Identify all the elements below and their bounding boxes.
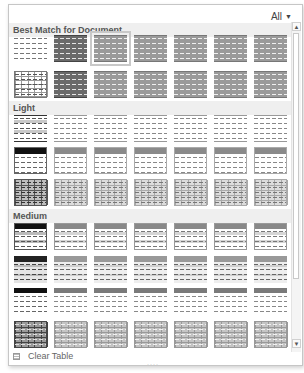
table-style-medium-r6-c2[interactable] bbox=[94, 256, 127, 283]
table-style-light-r2-c3[interactable] bbox=[134, 115, 167, 142]
table-style-best-match-r1-c0[interactable] bbox=[14, 71, 47, 98]
table-style-light-r4-c1[interactable] bbox=[54, 179, 87, 206]
table-style-light-r4-c3[interactable] bbox=[134, 179, 167, 206]
table-style-medium-r5-c0[interactable] bbox=[14, 223, 47, 250]
table-style-light-r3-c1[interactable] bbox=[54, 147, 87, 174]
table-style-light-r2-c2[interactable] bbox=[94, 115, 127, 142]
table-style-medium-r6-c3[interactable] bbox=[134, 256, 167, 283]
table-style-light-r2-c6[interactable] bbox=[254, 115, 287, 142]
scrollbar-thumb[interactable] bbox=[293, 33, 299, 279]
table-style-best-match-r0-c5[interactable] bbox=[214, 35, 247, 62]
table-style-best-match-r1-c3[interactable] bbox=[134, 71, 167, 98]
table-style-medium-r8-c4[interactable] bbox=[174, 321, 207, 348]
table-style-medium-r5-c3[interactable] bbox=[134, 223, 167, 250]
table-style-best-match-r0-c3[interactable] bbox=[134, 35, 167, 62]
table-style-best-match-r1-c4[interactable] bbox=[174, 71, 207, 98]
table-style-light-r3-c6[interactable] bbox=[254, 147, 287, 174]
table-style-medium-r8-c3[interactable] bbox=[134, 321, 167, 348]
clear-table-button[interactable]: Clear Table bbox=[13, 351, 73, 361]
table-style-medium-r7-c2[interactable] bbox=[94, 288, 127, 315]
vertical-scrollbar[interactable]: ▲ ▼ bbox=[291, 22, 301, 352]
table-style-medium-r8-c1[interactable] bbox=[54, 321, 87, 348]
style-gallery: Best Match for DocumentLightMedium bbox=[9, 22, 293, 352]
table-style-medium-r6-c0[interactable] bbox=[14, 256, 47, 283]
section-header-medium: Medium bbox=[9, 209, 293, 223]
table-style-best-match-r1-c2[interactable] bbox=[94, 71, 127, 98]
table-style-best-match-r0-c6[interactable] bbox=[254, 35, 287, 62]
filter-label: All bbox=[271, 11, 282, 22]
table-style-light-r2-c1[interactable] bbox=[54, 115, 87, 142]
table-style-medium-r7-c6[interactable] bbox=[254, 288, 287, 315]
table-style-best-match-r1-c1[interactable] bbox=[54, 71, 87, 98]
table-style-medium-r6-c1[interactable] bbox=[54, 256, 87, 283]
table-style-medium-r8-c6[interactable] bbox=[254, 321, 287, 348]
resize-grip[interactable]: ···· bbox=[147, 361, 159, 367]
table-style-medium-r7-c1[interactable] bbox=[54, 288, 87, 315]
table-style-medium-r6-c4[interactable] bbox=[174, 256, 207, 283]
table-style-best-match-r1-c6[interactable] bbox=[254, 71, 287, 98]
table-style-medium-r7-c0[interactable] bbox=[14, 288, 47, 315]
table-style-light-r2-c0[interactable] bbox=[14, 115, 47, 142]
scroll-down-icon[interactable]: ▼ bbox=[292, 339, 301, 348]
table-style-best-match-r1-c5[interactable] bbox=[214, 71, 247, 98]
table-style-light-r4-c6[interactable] bbox=[254, 179, 287, 206]
table-style-medium-r6-c6[interactable] bbox=[254, 256, 287, 283]
table-style-medium-r7-c3[interactable] bbox=[134, 288, 167, 315]
eraser-table-icon bbox=[13, 353, 20, 360]
filter-dropdown[interactable]: All ▼ bbox=[271, 11, 292, 22]
table-style-medium-r6-c5[interactable] bbox=[214, 256, 247, 283]
table-style-light-r3-c5[interactable] bbox=[214, 147, 247, 174]
scroll-up-icon[interactable]: ▲ bbox=[292, 22, 301, 31]
table-style-best-match-r0-c1[interactable] bbox=[54, 35, 87, 62]
table-style-light-r2-c5[interactable] bbox=[214, 115, 247, 142]
table-style-medium-r5-c6[interactable] bbox=[254, 223, 287, 250]
table-style-light-r4-c5[interactable] bbox=[214, 179, 247, 206]
table-style-light-r2-c4[interactable] bbox=[174, 115, 207, 142]
table-style-medium-r8-c5[interactable] bbox=[214, 321, 247, 348]
table-style-best-match-r0-c4[interactable] bbox=[174, 35, 207, 62]
table-style-light-r3-c0[interactable] bbox=[14, 147, 47, 174]
table-style-light-r4-c0[interactable] bbox=[14, 179, 47, 206]
table-style-best-match-r0-c0[interactable] bbox=[14, 35, 47, 62]
section-header-light: Light bbox=[9, 101, 293, 115]
table-style-medium-r5-c2[interactable] bbox=[94, 223, 127, 250]
table-style-medium-r8-c0[interactable] bbox=[14, 321, 47, 348]
table-style-medium-r5-c5[interactable] bbox=[214, 223, 247, 250]
table-style-medium-r5-c4[interactable] bbox=[174, 223, 207, 250]
table-style-medium-r5-c1[interactable] bbox=[54, 223, 87, 250]
table-style-medium-r7-c5[interactable] bbox=[214, 288, 247, 315]
chevron-down-icon: ▼ bbox=[285, 13, 292, 20]
table-style-light-r4-c2[interactable] bbox=[94, 179, 127, 206]
table-style-light-r3-c3[interactable] bbox=[134, 147, 167, 174]
table-style-light-r4-c4[interactable] bbox=[174, 179, 207, 206]
table-style-medium-r7-c4[interactable] bbox=[174, 288, 207, 315]
table-style-light-r3-c4[interactable] bbox=[174, 147, 207, 174]
table-style-light-r3-c2[interactable] bbox=[94, 147, 127, 174]
clear-table-label: Clear Table bbox=[28, 351, 73, 361]
table-styles-gallery: All ▼ Best Match for DocumentLightMedium… bbox=[8, 4, 303, 366]
table-style-medium-r8-c2[interactable] bbox=[94, 321, 127, 348]
table-style-best-match-r0-c2[interactable] bbox=[94, 35, 127, 62]
